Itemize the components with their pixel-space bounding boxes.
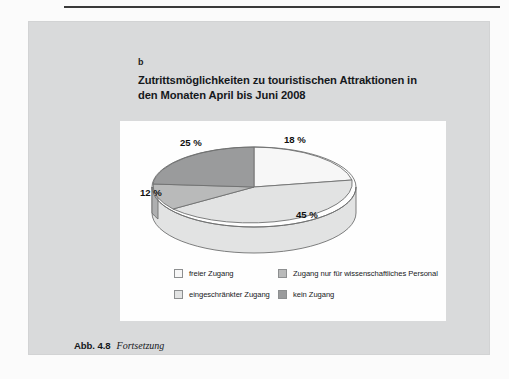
legend-item-kein-zugang: kein Zugang bbox=[278, 290, 442, 300]
chart-legend: freier Zugang eingeschränkter Zugang Zug… bbox=[174, 269, 442, 317]
pie-label-freier-zugang: 18 % bbox=[284, 134, 306, 145]
pie-chart-svg bbox=[136, 125, 372, 261]
legend-label-wissenschaftliches-personal: Zugang nur für wissenschaftliches Person… bbox=[293, 269, 438, 279]
chart-title: Zutrittsmöglichkeiten zu touristischen A… bbox=[138, 73, 438, 102]
legend-item-freier-zugang: freier Zugang bbox=[174, 269, 286, 279]
legend-swatch-wissenschaftliches-personal bbox=[278, 269, 287, 278]
legend-item-eingeschraenkter-zugang: eingeschränkter Zugang bbox=[174, 290, 286, 300]
header-divider bbox=[64, 6, 500, 8]
figure-caption: Abb. 4.8Fortsetzung bbox=[74, 340, 164, 351]
chart-card: 18 % 45 % 12 % 25 % freier Zugang einges… bbox=[120, 121, 446, 321]
legend-label-freier-zugang: freier Zugang bbox=[189, 269, 234, 279]
figure-panel: b Zutrittsmöglichkeiten zu touristischen… bbox=[28, 21, 490, 355]
legend-swatch-kein-zugang bbox=[278, 290, 287, 299]
figure-caption-number: Abb. 4.8 bbox=[74, 340, 111, 351]
pie-label-eingeschraenkter-zugang: 45 % bbox=[296, 209, 318, 220]
panel-letter: b bbox=[138, 57, 144, 67]
legend-swatch-freier-zugang bbox=[174, 269, 183, 278]
pie-chart: 18 % 45 % 12 % 25 % bbox=[136, 125, 372, 261]
pie-label-wissenschaftliches-personal: 12 % bbox=[140, 187, 162, 198]
legend-item-wissenschaftliches-personal: Zugang nur für wissenschaftliches Person… bbox=[278, 269, 442, 279]
legend-swatch-eingeschraenkter-zugang bbox=[174, 290, 183, 299]
legend-column-left: freier Zugang eingeschränkter Zugang bbox=[174, 269, 286, 310]
figure-caption-text: Fortsetzung bbox=[117, 340, 165, 351]
legend-label-eingeschraenkter-zugang: eingeschränkter Zugang bbox=[189, 290, 270, 300]
legend-column-right: Zugang nur für wissenschaftliches Person… bbox=[278, 269, 442, 310]
legend-label-kein-zugang: kein Zugang bbox=[293, 290, 334, 300]
pie-slice-kein-zugang bbox=[153, 147, 254, 187]
pie-label-kein-zugang: 25 % bbox=[180, 137, 202, 148]
